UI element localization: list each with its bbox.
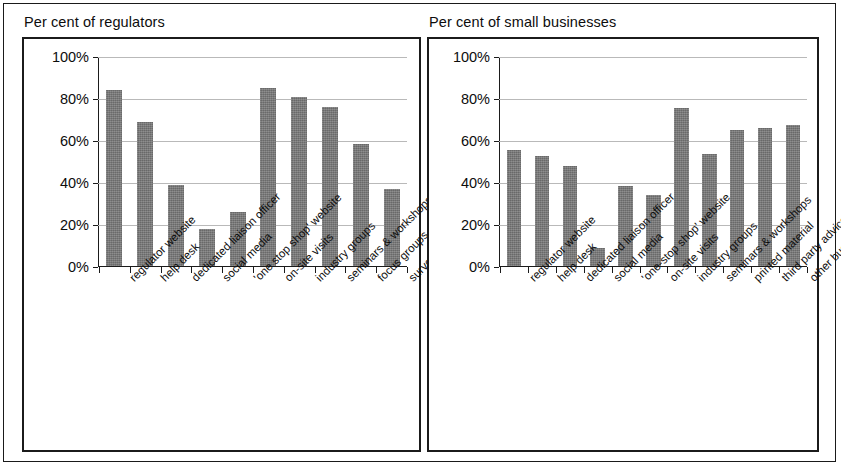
x-axis-category-label: third party advice/assistance (780, 276, 788, 284)
x-axis-category-label: industry groups (696, 276, 704, 284)
x-axis-category-label: on-site visits (668, 276, 676, 284)
bar-slot (191, 57, 222, 266)
x-axis-category-label: other business owners (808, 276, 816, 284)
x-axis-category-label: social media (221, 276, 229, 284)
bar-slot (500, 57, 528, 266)
x-axis-category-label: dedicated liaison officer (190, 276, 198, 284)
bar-slot (99, 57, 130, 266)
plot-area-regulators: 100%80%60%40%20%0% regulator websitehelp… (98, 57, 407, 267)
y-axis-tick-label: 0% (68, 260, 89, 275)
x-axis-category-label: 'one stop shop' website (252, 276, 260, 284)
x-axis-category-label: surveys (407, 276, 415, 284)
bar (535, 156, 550, 266)
y-axis-tick (93, 141, 98, 142)
bar (507, 150, 522, 266)
x-axis-labels-small-businesses: regulator websitehelp deskdedicated liai… (499, 267, 807, 437)
y-axis-tick-label: 0% (469, 260, 490, 275)
chart-box-regulators: 100%80%60%40%20%0% regulator websitehelp… (22, 37, 421, 452)
y-axis-tick-label: 20% (60, 218, 89, 233)
bar-slot (584, 57, 612, 266)
chart-panels: Per cent of regulators 100%80%60%40%20%0… (4, 4, 835, 461)
y-axis-tick-label: 20% (461, 218, 490, 233)
x-axis-category-label: regulator website (128, 276, 136, 284)
y-axis-tick (494, 141, 499, 142)
x-axis-category-label: printed material (752, 276, 760, 284)
chart-panel-small-businesses: Per cent of small businesses 100%80%60%4… (427, 13, 819, 457)
x-axis-tick (807, 267, 808, 273)
chart-box-small-businesses: 100%80%60%40%20%0% regulator websitehelp… (427, 37, 819, 452)
y-axis-tick-label: 40% (60, 176, 89, 191)
y-axis-tick-label: 80% (60, 92, 89, 107)
y-axis-tick-label: 80% (461, 92, 490, 107)
x-axis-category-label: focus groups (376, 276, 384, 284)
x-axis-category-label: seminars & workshops (724, 276, 732, 284)
figure-frame: Per cent of regulators 100%80%60%40%20%0… (3, 3, 836, 462)
y-axis-tick-label: 60% (461, 134, 490, 149)
x-axis-labels-regulators: regulator websitehelp deskdedicated liai… (98, 267, 407, 437)
x-axis-category-label: social media (612, 276, 620, 284)
y-axis-tick (93, 99, 98, 100)
x-axis-category-label: dedicated liaison officer (584, 276, 592, 284)
chart-panel-regulators: Per cent of regulators 100%80%60%40%20%0… (22, 13, 421, 457)
x-axis-category-label: help desk (159, 276, 167, 284)
y-axis-tick (494, 183, 499, 184)
y-axis-tick-label: 60% (60, 134, 89, 149)
bar (137, 122, 153, 266)
bar-slot (130, 57, 161, 266)
y-axis-tick (494, 225, 499, 226)
y-axis-tick (494, 99, 499, 100)
x-axis-category-label: industry groups (314, 276, 322, 284)
plot-area-small-businesses: 100%80%60%40%20%0% regulator websitehelp… (499, 57, 807, 267)
y-axis-tick-label: 100% (453, 50, 490, 65)
y-axis-tick (93, 57, 98, 58)
bar (106, 90, 122, 266)
y-axis-tick (93, 225, 98, 226)
y-axis-tick (93, 183, 98, 184)
x-axis-category-label: seminars & workshops (345, 276, 353, 284)
y-axis-tick (494, 57, 499, 58)
bar-slot (528, 57, 556, 266)
x-axis-category-label: help desk (556, 276, 564, 284)
x-axis-category-label: 'one-stop shop' website (640, 276, 648, 284)
x-axis-category-label: on-site visits (283, 276, 291, 284)
y-axis-tick-label: 100% (52, 50, 89, 65)
y-axis-tick-label: 40% (461, 176, 490, 191)
x-axis-category-label: regulator website (528, 276, 536, 284)
panel-title-regulators: Per cent of regulators (24, 13, 421, 31)
panel-title-small-businesses: Per cent of small businesses (429, 13, 819, 31)
